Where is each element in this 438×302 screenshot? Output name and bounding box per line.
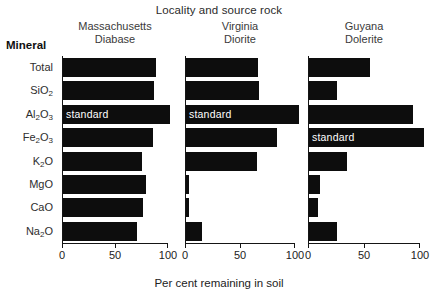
x-axis-tick xyxy=(364,243,365,248)
bar xyxy=(62,198,143,217)
bar-row: standard xyxy=(308,126,420,149)
bar xyxy=(185,128,277,147)
bar-row: standard xyxy=(62,103,168,126)
bar xyxy=(185,222,202,241)
bar-row xyxy=(308,196,420,219)
bar-row xyxy=(62,56,168,79)
x-axis-tick-label: 0 xyxy=(182,249,188,261)
bar-row: standard xyxy=(185,103,295,126)
mineral-label: MgO xyxy=(0,173,57,196)
bar: standard xyxy=(308,128,424,147)
panel-rock-label: Diabase xyxy=(62,33,168,46)
bar xyxy=(62,222,137,241)
x-axis-tick xyxy=(115,243,116,248)
x-axis-tick-label: 50 xyxy=(358,249,370,261)
x-axis-tick xyxy=(62,243,63,248)
x-axis-tick xyxy=(419,243,420,248)
panel-header-virginia: Virginia Diorite xyxy=(185,20,295,46)
panel-locality-label: Virginia xyxy=(185,20,295,33)
bar xyxy=(308,81,337,100)
bar: standard xyxy=(185,105,299,124)
panel-guyana: standard050100 xyxy=(308,56,420,243)
y-axis-line xyxy=(62,56,63,244)
panel-rock-label: Dolerite xyxy=(308,33,420,46)
bar-row xyxy=(308,103,420,126)
bar-row xyxy=(308,220,420,243)
x-axis-tick xyxy=(294,243,295,248)
bar-row xyxy=(62,79,168,102)
x-axis-tick-label: 100 xyxy=(159,249,177,261)
mineral-label: K2O xyxy=(0,150,57,173)
panel-locality-label: Massachusetts xyxy=(62,20,168,33)
bar-row xyxy=(185,150,295,173)
bar-row xyxy=(185,173,295,196)
x-axis-tick xyxy=(308,243,309,248)
mineral-label: Na2O xyxy=(0,220,57,243)
panel-rock-label: Diorite xyxy=(185,33,295,46)
panel-header-guyana: Guyana Dolerite xyxy=(308,20,420,46)
panel-header-massachusetts: Massachusetts Diabase xyxy=(62,20,168,46)
mineral-label: CaO xyxy=(0,196,57,219)
bar-row xyxy=(308,173,420,196)
x-axis: 050100 xyxy=(185,243,295,249)
x-axis: 050100 xyxy=(62,243,168,249)
x-axis: 050100 xyxy=(308,243,420,249)
x-axis-tick xyxy=(240,243,241,248)
bar: standard xyxy=(62,105,170,124)
bar xyxy=(62,81,154,100)
bar-row xyxy=(62,173,168,196)
panel-locality-label: Guyana xyxy=(308,20,420,33)
standard-annotation: standard xyxy=(189,108,231,120)
bar-row xyxy=(185,126,295,149)
mineral-label: Total xyxy=(0,56,57,79)
chart-title: Locality and source rock xyxy=(0,4,438,16)
bar xyxy=(62,128,153,147)
x-axis-title: Per cent remaining in soil xyxy=(0,277,438,289)
mineral-label: Al2O3 xyxy=(0,103,57,126)
bar-row xyxy=(308,79,420,102)
panel-massachusetts: standard050100 xyxy=(62,56,168,243)
mineral-label: SiO2 xyxy=(0,79,57,102)
chart-figure: Locality and source rock Massachusetts D… xyxy=(0,0,438,302)
standard-annotation: standard xyxy=(312,131,354,143)
bar-row xyxy=(185,220,295,243)
plot-area: standard xyxy=(62,56,168,243)
y-axis-line xyxy=(308,56,309,244)
x-axis-tick-label: 50 xyxy=(109,249,121,261)
mineral-axis-labels: TotalSiO2Al2O3Fe2O3K2OMgOCaONa2O xyxy=(0,56,57,243)
x-axis-tick-label: 0 xyxy=(59,249,65,261)
plot-area: standard xyxy=(308,56,420,243)
bar-row xyxy=(62,196,168,219)
bar-row xyxy=(185,56,295,79)
bar xyxy=(62,152,142,171)
bar xyxy=(185,81,259,100)
bar xyxy=(308,175,320,194)
bar-row xyxy=(185,79,295,102)
bar-row xyxy=(62,150,168,173)
bar-row xyxy=(62,126,168,149)
bar-row xyxy=(308,56,420,79)
mineral-column-header: Mineral xyxy=(6,39,46,51)
x-axis-tick-label: 50 xyxy=(234,249,246,261)
x-axis-tick-label: 100 xyxy=(411,249,429,261)
x-axis-tick xyxy=(167,243,168,248)
y-axis-line xyxy=(185,56,186,244)
standard-annotation: standard xyxy=(66,108,108,120)
bar xyxy=(308,222,337,241)
x-axis-tick-label: 0 xyxy=(305,249,311,261)
plot-area: standard xyxy=(185,56,295,243)
bar-row xyxy=(62,220,168,243)
bar xyxy=(308,58,370,77)
bar xyxy=(185,58,258,77)
mineral-label: Fe2O3 xyxy=(0,126,57,149)
bar xyxy=(62,58,156,77)
x-axis-tick xyxy=(185,243,186,248)
bar xyxy=(308,198,318,217)
bar xyxy=(185,152,257,171)
x-axis-tick-label: 100 xyxy=(286,249,304,261)
bar-row xyxy=(308,150,420,173)
panel-virginia: standard050100 xyxy=(185,56,295,243)
bar xyxy=(62,175,146,194)
bar-row xyxy=(185,196,295,219)
bar xyxy=(308,152,347,171)
